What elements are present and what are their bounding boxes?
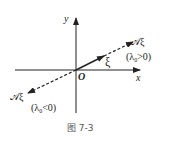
negative-image-arrow — [28, 70, 76, 93]
negative-condition: (λ0<0) — [31, 103, 56, 114]
positive-condition-post: >0) — [137, 51, 151, 62]
vector-xi-arrow — [76, 56, 104, 70]
negative-condition-post: <0) — [42, 102, 56, 113]
y-axis-label: y — [64, 14, 68, 24]
eigenvector-diagram: y x O ξ 𝒜ξ (λ0>0) 𝒜ξ (λ0<0) 图 7-3 — [0, 0, 169, 145]
figure-caption: 图 7-3 — [67, 124, 94, 133]
negative-image-label: 𝒜ξ — [10, 92, 23, 102]
x-axis-label: x — [136, 73, 140, 83]
vector-xi-label: ξ — [105, 56, 110, 68]
positive-condition-pre: (λ — [126, 51, 134, 62]
positive-condition: (λ0>0) — [126, 52, 151, 63]
negative-condition-pre: (λ — [31, 102, 39, 113]
origin-label: O — [78, 72, 85, 82]
positive-image-label: 𝒜ξ — [131, 37, 144, 47]
